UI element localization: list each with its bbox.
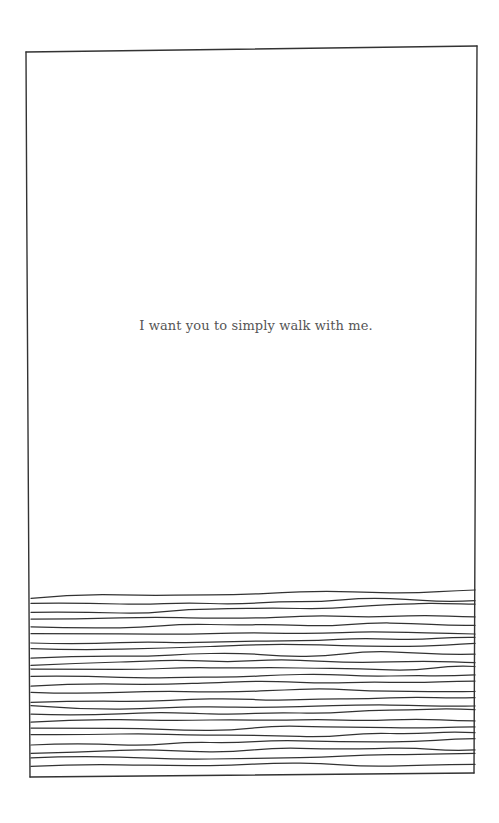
wavy-line [31, 643, 475, 649]
wavy-line [31, 603, 475, 613]
wavy-line [31, 681, 475, 686]
wavy-line [31, 590, 475, 598]
wavy-line [31, 748, 475, 753]
wavy-line [31, 632, 475, 634]
wavy-line [31, 705, 475, 709]
wavy-line [31, 739, 475, 746]
poem-caption: I want you to simply walk with me. [0, 318, 499, 333]
poem-page: I want you to simply walk with me. [0, 0, 499, 823]
wavy-line [31, 674, 475, 678]
wavy-line [31, 726, 475, 730]
wavy-line [31, 666, 475, 670]
wavy-line [31, 623, 475, 628]
wavy-line [31, 719, 475, 722]
wavy-line [31, 709, 475, 715]
wavy-line [31, 697, 475, 702]
wavy-line [31, 660, 475, 666]
wavy-line [31, 616, 475, 620]
wavy-lines [31, 590, 475, 766]
wavy-line [31, 637, 475, 643]
wavy-line [31, 753, 475, 759]
hand-drawn-frame-illustration [0, 0, 499, 823]
wavy-line [31, 763, 475, 766]
wavy-line [31, 689, 475, 693]
wavy-line [31, 652, 475, 658]
wavy-line [31, 732, 475, 737]
